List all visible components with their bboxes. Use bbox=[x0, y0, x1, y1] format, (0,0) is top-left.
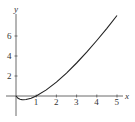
y-tick-label: 4 bbox=[7, 51, 12, 61]
line-chart: x 12345 y 246 bbox=[0, 0, 135, 122]
x-tick-label: 4 bbox=[94, 97, 99, 107]
x-tick-label: 3 bbox=[74, 97, 79, 107]
x-axis-label: x bbox=[124, 91, 129, 101]
x-axis: x 12345 bbox=[6, 91, 129, 107]
curve-series bbox=[16, 16, 117, 100]
y-axis-label: y bbox=[13, 4, 18, 14]
y-tick-label: 6 bbox=[7, 31, 12, 41]
x-tick-label: 5 bbox=[115, 97, 120, 107]
y-axis: y 246 bbox=[7, 4, 18, 116]
x-tick-label: 1 bbox=[34, 97, 39, 107]
x-tick-label: 2 bbox=[54, 97, 59, 107]
y-tick-label: 2 bbox=[7, 71, 12, 81]
